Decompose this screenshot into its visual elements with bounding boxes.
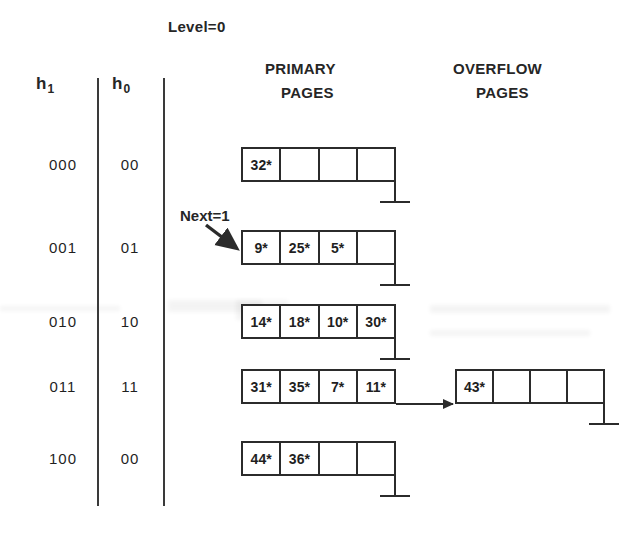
page-cell: [358, 443, 394, 474]
page-cell: [320, 149, 358, 180]
page-cell: 32*: [243, 149, 281, 180]
primary-page-0: 32*: [241, 147, 396, 182]
page-cell: 7*: [320, 371, 358, 402]
column-header-h0: h0: [112, 74, 129, 94]
page-cell: [494, 371, 531, 402]
primary-page-3: 31* 35* 7* 11*: [241, 369, 396, 404]
page-cell: 5*: [320, 232, 358, 263]
page-cell: 30*: [358, 306, 394, 337]
primary-page-4: 44* 36*: [241, 441, 396, 476]
page-cell: [281, 149, 319, 180]
page-cell: [531, 371, 568, 402]
page-cell: 44*: [243, 443, 281, 474]
page-cell: [320, 443, 358, 474]
bucket-label-h0-3: 11: [101, 378, 159, 395]
linear-hashing-diagram: Level=0 PRIMARY PAGES OVERFLOW PAGES h1 …: [0, 0, 638, 544]
scan-artifact: [0, 306, 120, 311]
h1-base: h: [36, 74, 46, 93]
column-divider-right: [163, 78, 165, 506]
column-divider-left: [97, 78, 99, 506]
scan-artifact: [430, 330, 590, 336]
primary-page-1: 9* 25* 5*: [241, 230, 396, 265]
page-cell: 14*: [243, 306, 281, 337]
bucket-label-h0-2: 10: [101, 313, 159, 330]
page-cell: [358, 232, 394, 263]
h1-subscript: 1: [47, 82, 54, 96]
page-cell: 11*: [358, 371, 394, 402]
page-cell: [568, 371, 603, 402]
bucket-label-h0-0: 00: [101, 156, 159, 173]
bucket-label-h0-4: 00: [101, 450, 159, 467]
overflow-chain-arrow: [396, 403, 453, 405]
bucket-label-h1-2: 010: [29, 313, 97, 330]
page-cell: 35*: [281, 371, 319, 402]
bucket-label-h1-1: 001: [29, 239, 97, 256]
column-header-h1: h1: [36, 74, 53, 94]
page-cell: 9*: [243, 232, 281, 263]
primary-page-2: 14* 18* 10* 30*: [241, 304, 396, 339]
overflow-page-3: 43*: [455, 369, 605, 404]
page-cell: 36*: [281, 443, 319, 474]
bucket-label-h1-0: 000: [29, 156, 97, 173]
page-cell: 43*: [457, 371, 494, 402]
primary-pages-heading-line1: PRIMARY: [265, 60, 336, 77]
bucket-label-h0-1: 01: [101, 239, 159, 256]
level-title: Level=0: [168, 18, 226, 35]
scan-artifact: [430, 305, 610, 313]
overflow-pages-heading-line2: PAGES: [476, 84, 529, 101]
bucket-label-h1-4: 100: [29, 450, 97, 467]
page-cell: 10*: [320, 306, 358, 337]
page-cell: 18*: [281, 306, 319, 337]
page-cell: [358, 149, 394, 180]
overflow-pages-heading-line1: OVERFLOW: [453, 60, 542, 77]
bucket-label-h1-3: 011: [29, 378, 97, 395]
h0-base: h: [112, 74, 122, 93]
page-cell: 25*: [281, 232, 319, 263]
h0-subscript: 0: [123, 82, 130, 96]
page-cell: 31*: [243, 371, 281, 402]
primary-pages-heading-line2: PAGES: [281, 84, 334, 101]
